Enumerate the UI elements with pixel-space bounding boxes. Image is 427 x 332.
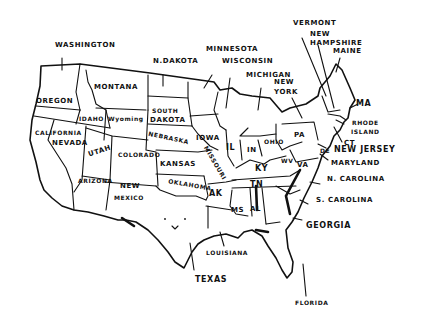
label-new-jersey: NEW JERSEY — [334, 146, 395, 154]
border-nd-sd — [148, 96, 188, 98]
label-new-mexico-1: NEW — [120, 183, 140, 190]
label-new-mexico-2: MEXICO — [114, 195, 144, 201]
border-wa-or — [36, 106, 80, 110]
texas-face-mouth — [172, 226, 178, 229]
leader-florida — [303, 264, 306, 296]
texas-face-eye — [164, 218, 166, 220]
leader-rhode-island — [336, 120, 344, 124]
border-wa-id — [76, 64, 80, 110]
label-alabama: AL — [250, 206, 261, 213]
border-mn-wi — [214, 92, 226, 130]
label-mississippi: MS — [231, 207, 244, 214]
gulf-thick — [256, 230, 268, 232]
country-outline — [30, 64, 355, 278]
label-ohio: OHIO — [264, 139, 284, 145]
label-north-dakota: N.DAKOTA — [153, 58, 198, 65]
border-tn-south — [232, 186, 296, 188]
label-nevada: NEVADA — [52, 140, 88, 147]
label-montana: MONTANA — [94, 84, 138, 91]
label-colorado: COLORADO — [118, 152, 160, 158]
label-texas: TEXAS — [195, 276, 227, 284]
leader-new-hampshire — [318, 45, 334, 108]
label-kansas: KANSAS — [160, 161, 196, 168]
label-rhode-island-2: ISLAND — [351, 129, 380, 135]
label-florida: FLORIDA — [295, 300, 329, 306]
texas-face-eye — [184, 218, 186, 220]
label-delaware: DE — [320, 148, 330, 154]
label-new-hampshire-2: HAMPSHIRE — [310, 40, 362, 47]
label-louisiana: LOUISIANA — [206, 250, 248, 256]
label-maine: MAINE — [333, 48, 362, 55]
leader-new-york — [292, 98, 302, 118]
us-map: WASHINGTON OREGON CALIFORNIA NEVADA IDAH… — [0, 0, 427, 332]
label-south-carolina: S. CAROLINA — [316, 197, 373, 204]
label-connecticut: CT — [344, 140, 355, 147]
label-iowa: IOWA — [196, 135, 220, 142]
leader-michigan — [258, 88, 261, 110]
border-mn-ia — [190, 114, 218, 116]
label-kentucky: KY — [255, 165, 268, 173]
label-massachusetts: MA — [356, 100, 371, 108]
label-arkansas: AK — [209, 190, 223, 198]
border-ks-ok — [156, 174, 204, 176]
label-oregon: OREGON — [36, 98, 73, 105]
label-south-dakota-1: SOUTH — [152, 108, 178, 114]
label-new-hampshire-1: NEW — [310, 31, 330, 38]
label-rhode-island-1: RHODE — [352, 120, 379, 126]
border-sd-mn — [188, 82, 192, 126]
label-indiana: IN — [247, 147, 257, 154]
label-west-virginia: WV — [281, 158, 293, 164]
label-wisconsin: WISCONSIN — [222, 58, 273, 65]
label-tennessee: TN — [250, 181, 263, 189]
border-in-oh — [258, 140, 262, 156]
leader-wisconsin — [226, 78, 230, 108]
border-mi-south — [240, 128, 276, 136]
border-ct-ri — [328, 114, 346, 120]
label-california: CALIFORNIA — [35, 128, 43, 137]
border-al-ga — [262, 188, 266, 224]
label-pennsylvania: PA — [294, 132, 305, 139]
label-maryland: MARYLAND — [331, 160, 380, 167]
border-ut-north — [86, 128, 148, 140]
label-minnesota: MINNESOTA — [206, 46, 258, 53]
border-sd-ne — [148, 124, 192, 126]
label-washington: WASHINGTON — [55, 42, 115, 49]
label-idaho: IDAHO — [79, 116, 104, 122]
border-id-wy — [104, 110, 106, 140]
label-south-dakota-2: DAKOTA — [150, 117, 186, 124]
border-ar-la — [206, 206, 232, 210]
label-vermont: VERMONT — [293, 20, 336, 27]
label-new-york-2: YORK — [274, 89, 298, 96]
label-georgia: GEORGIA — [306, 222, 351, 230]
label-new-york-1: NEW — [274, 79, 294, 86]
label-arizona: ARIZONA — [78, 178, 113, 184]
label-illinois: IL — [226, 144, 235, 152]
label-wyoming: Wyoming — [108, 116, 144, 122]
label-virginia: VA — [297, 162, 309, 169]
border-ga-fl — [266, 222, 280, 224]
border-il-in — [240, 140, 242, 160]
label-north-carolina: N. CAROLINA — [327, 176, 385, 183]
